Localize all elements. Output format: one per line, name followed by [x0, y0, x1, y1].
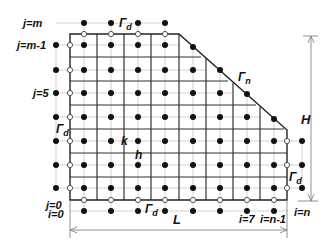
label-i-7: i=7	[239, 213, 255, 225]
label-gamma-d-left: Γd	[56, 122, 69, 138]
label-gamma-d-right: Γd	[289, 170, 302, 186]
label-gamma-n: Γn	[238, 70, 251, 86]
finite-difference-grid-diagram: j=m j=m-1 j=5 j=0 i=0 i=7 i=n-1 i=n Γd Γ…	[0, 0, 328, 248]
label-j-5: j=5	[31, 87, 49, 99]
label-H: H	[301, 112, 311, 127]
label-i-n-minus-1: i=n-1	[260, 213, 286, 225]
label-i-n: i=n	[294, 206, 310, 218]
label-j-m-minus-1: j=m-1	[15, 39, 46, 51]
label-L: L	[173, 212, 181, 227]
label-h: h	[135, 148, 142, 162]
label-gamma-d-top: Γd	[119, 16, 132, 32]
label-gamma-d-bottom: Γd	[145, 202, 158, 218]
label-j-m: j=m	[21, 17, 42, 29]
label-i-0: i=0	[48, 208, 64, 220]
